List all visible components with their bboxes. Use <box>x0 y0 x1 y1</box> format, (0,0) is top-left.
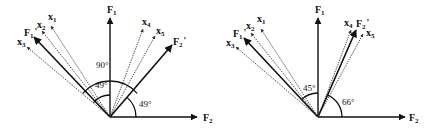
vector-f1-prime <box>244 38 318 117</box>
vector-x5-label: x5 <box>156 25 165 38</box>
axis-f2-label: F2 <box>409 112 419 125</box>
vector-x2-label: x2 <box>37 19 46 32</box>
angle-arc <box>328 95 342 117</box>
angle-label: 49° <box>139 99 152 109</box>
vector-x5-label: x5 <box>366 27 375 40</box>
angle-label: 66° <box>342 97 355 107</box>
vector-x1-label: x1 <box>257 13 266 26</box>
force-vector-diagrams: F1F2x1x2F1'x3x4x5F2'90°49°49° F1F2x1x2F1… <box>0 0 432 130</box>
axis-f2-label: F2 <box>203 112 213 125</box>
vector-x2-label: x2 <box>246 20 255 33</box>
angle-label: 90° <box>96 60 109 70</box>
vector-x2 <box>42 31 110 117</box>
angle-arc <box>127 97 136 117</box>
vector-x1 <box>261 29 318 117</box>
vector-x4-label: x4 <box>142 16 151 29</box>
vector-x3 <box>236 47 318 117</box>
vector-x2 <box>251 33 318 117</box>
left-diagram: F1F2x1x2F1'x3x4x5F2'90°49°49° <box>17 4 213 125</box>
vector-x1 <box>51 26 110 117</box>
vector-x1-label: x1 <box>48 11 57 24</box>
vector-x4-label: x4 <box>344 17 353 30</box>
angle-label: 49° <box>95 80 108 90</box>
axis-f1-label: F1 <box>107 4 117 17</box>
vector-f2-prime-label: F2' <box>173 35 187 49</box>
angle-label: 45° <box>303 83 316 93</box>
right-diagram: F1F2x1x2F1'x3x4F2'x545°66° <box>226 4 419 125</box>
axis-f1-label: F1 <box>315 4 325 17</box>
vector-f1-prime <box>34 37 110 117</box>
vector-x5 <box>318 34 363 117</box>
